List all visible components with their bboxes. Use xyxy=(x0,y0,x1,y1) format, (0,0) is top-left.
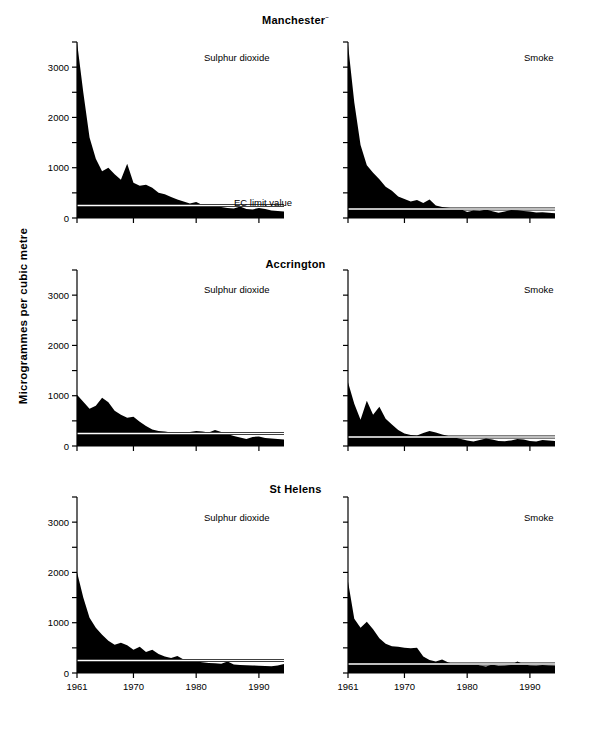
ec-limit-value-label: EC limit value xyxy=(234,197,292,208)
x-tick-label: 1990 xyxy=(519,681,540,692)
y-tick-label: 0 xyxy=(64,213,69,224)
panel-label-accrington-smoke: Smoke xyxy=(524,284,554,295)
x-tick-label: 1980 xyxy=(186,681,207,692)
y-tick-label: 3000 xyxy=(48,62,69,73)
panel-label-accrington-so2: Sulphur dioxide xyxy=(204,284,270,295)
x-tick-label: 1970 xyxy=(394,681,415,692)
y-tick-label: 3000 xyxy=(48,290,69,301)
panel-label-manchester-smoke: Smoke xyxy=(524,52,554,63)
x-tick-label: 1980 xyxy=(457,681,478,692)
y-tick-label: 0 xyxy=(64,441,69,452)
x-tick-label: 1970 xyxy=(123,681,144,692)
panel-st-helens-smoke: 1961197019801990 xyxy=(337,497,555,692)
area-series xyxy=(348,581,555,673)
y-tick-label: 1000 xyxy=(48,390,69,401)
x-tick-label: 1961 xyxy=(337,681,358,692)
panel-accrington-sulphur-dioxide: 0100020003000 xyxy=(48,270,284,452)
y-tick-label: 2000 xyxy=(48,112,69,123)
panel-label-sthelens-smoke: Smoke xyxy=(524,512,554,523)
area-series xyxy=(77,42,284,218)
y-tick-label: 1000 xyxy=(48,162,69,173)
panel-label-manchester-so2: Sulphur dioxide xyxy=(204,52,270,63)
y-tick-label: 1000 xyxy=(48,617,69,628)
y-tick-label: 2000 xyxy=(48,340,69,351)
area-series xyxy=(348,45,555,218)
area-series xyxy=(77,572,284,673)
panel-st-helens-sulphur-dioxide: 01000200030001961197019801990 xyxy=(48,497,284,692)
x-tick-label: 1990 xyxy=(248,681,269,692)
panel-accrington-smoke xyxy=(343,270,555,451)
panel-manchester-smoke xyxy=(343,42,555,223)
y-tick-label: 2000 xyxy=(48,567,69,578)
y-tick-label: 3000 xyxy=(48,517,69,528)
area-series xyxy=(77,395,284,446)
pollution-figure: Microgrammes per cubic metre Manchester~… xyxy=(0,0,591,733)
panel-label-sthelens-so2: Sulphur dioxide xyxy=(204,512,270,523)
y-tick-label: 0 xyxy=(64,668,69,679)
x-tick-label: 1961 xyxy=(66,681,87,692)
plot-canvas: 0100020003000010002000300001000200030001… xyxy=(0,0,591,733)
